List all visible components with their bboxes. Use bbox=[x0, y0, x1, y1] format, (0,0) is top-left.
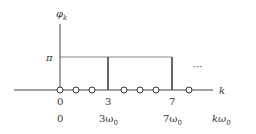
marker-k6 bbox=[153, 87, 159, 93]
phi-axis-label: φk bbox=[56, 8, 67, 22]
freq-axis-label: kω0 bbox=[212, 113, 231, 127]
marker-k0 bbox=[57, 87, 63, 93]
marker-k8 bbox=[186, 87, 192, 93]
tick-freq-0: 0 bbox=[57, 113, 63, 124]
tick-freq-7w0: 7ω0 bbox=[163, 113, 182, 127]
pi-label: π bbox=[45, 52, 53, 63]
tick-freq-3w0: 3ω0 bbox=[99, 113, 118, 127]
marker-k5 bbox=[137, 87, 143, 93]
marker-k4 bbox=[121, 87, 127, 93]
marker-k2 bbox=[89, 87, 95, 93]
ellipsis: ··· bbox=[193, 61, 203, 72]
tick-k-7: 7 bbox=[169, 96, 175, 107]
marker-k1 bbox=[73, 87, 79, 93]
tick-k-3: 3 bbox=[105, 96, 111, 107]
k-axis-label: k bbox=[219, 85, 225, 96]
phase-spectrum-diagram: φk π ··· k 0 3 7 0 3ω0 7ω0 kω0 bbox=[0, 0, 256, 134]
tick-k-0: 0 bbox=[57, 96, 63, 107]
